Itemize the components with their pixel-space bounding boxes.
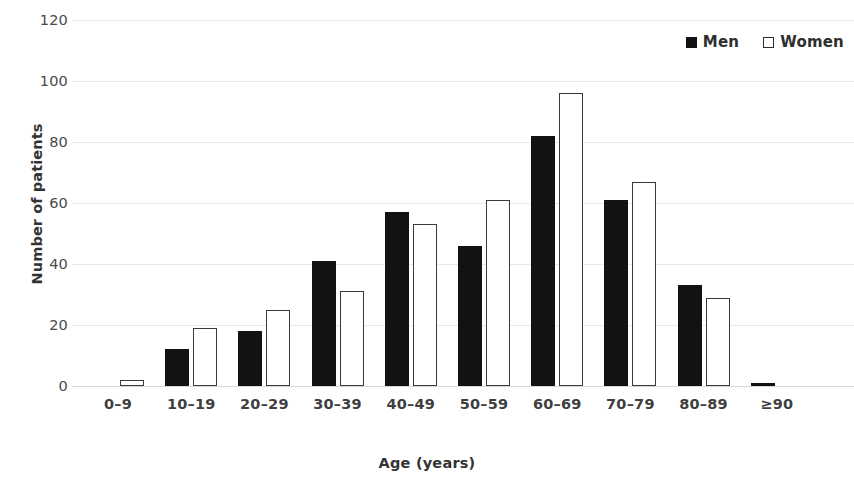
x-axis-tick-label: 10–19	[151, 396, 231, 412]
y-axis-tick-label: 0	[6, 378, 68, 394]
legend-swatch-icon	[686, 37, 697, 48]
plot-area	[72, 20, 854, 386]
x-axis-tick-label: 80–89	[664, 396, 744, 412]
bar-chart: Number of patients 120100806040200 0–910…	[0, 0, 854, 481]
bar-men-5059	[458, 246, 482, 386]
bar-women-5059	[486, 200, 510, 386]
y-axis-tick-label: 20	[6, 317, 68, 333]
legend-swatch-icon	[763, 37, 774, 48]
bar-group	[92, 20, 144, 386]
x-axis-tick-label: 60–69	[517, 396, 597, 412]
bar-group	[165, 20, 217, 386]
bar-group	[385, 20, 437, 386]
y-axis-tick-labels: 120100806040200	[0, 0, 68, 400]
bar-group	[238, 20, 290, 386]
x-axis-tick-labels: 0–910–1920–2930–3940–4950–5960–6970–7980…	[72, 396, 854, 422]
legend-label: Women	[780, 33, 844, 51]
x-axis-tick-label: ≥90	[737, 396, 817, 412]
y-axis-tick-label: 40	[6, 256, 68, 272]
bar-women-1019	[193, 328, 217, 386]
bar-group	[678, 20, 730, 386]
bar-group	[312, 20, 364, 386]
bar-men-6069	[531, 136, 555, 386]
x-axis-tick-label: 50–59	[444, 396, 524, 412]
x-axis-tick-label: 70–79	[590, 396, 670, 412]
x-axis-tick-label: 30–39	[298, 396, 378, 412]
y-axis-tick-label: 60	[6, 195, 68, 211]
bar-group	[531, 20, 583, 386]
bar-men-2029	[238, 331, 262, 386]
bar-women-09	[120, 380, 144, 386]
bar-men-3039	[312, 261, 336, 386]
bar-men-4049	[385, 212, 409, 386]
bar-women-3039	[340, 291, 364, 386]
bar-men-90	[751, 383, 775, 386]
x-axis-tick-label: 20–29	[224, 396, 304, 412]
x-axis-tick-label: 40–49	[371, 396, 451, 412]
bar-group	[751, 20, 803, 386]
legend-item-women[interactable]: Women	[763, 33, 844, 51]
bar-women-4049	[413, 224, 437, 386]
chart-legend: MenWomen	[686, 33, 844, 51]
y-axis-tick-label: 80	[6, 134, 68, 150]
bar-women-7079	[632, 182, 656, 386]
bar-men-1019	[165, 349, 189, 386]
y-axis-tick-label: 120	[6, 12, 68, 28]
axis-baseline	[72, 386, 854, 387]
y-axis-tick-label: 100	[6, 73, 68, 89]
bar-women-6069	[559, 93, 583, 386]
x-axis-tick-label: 0–9	[78, 396, 158, 412]
legend-item-men[interactable]: Men	[686, 33, 739, 51]
bar-men-8089	[678, 285, 702, 386]
bar-group	[458, 20, 510, 386]
x-axis-title: Age (years)	[0, 455, 854, 471]
bars-layer	[72, 20, 854, 386]
bar-women-2029	[266, 310, 290, 386]
bar-group	[604, 20, 656, 386]
bar-men-7079	[604, 200, 628, 386]
legend-label: Men	[703, 33, 739, 51]
bar-women-8089	[706, 298, 730, 386]
